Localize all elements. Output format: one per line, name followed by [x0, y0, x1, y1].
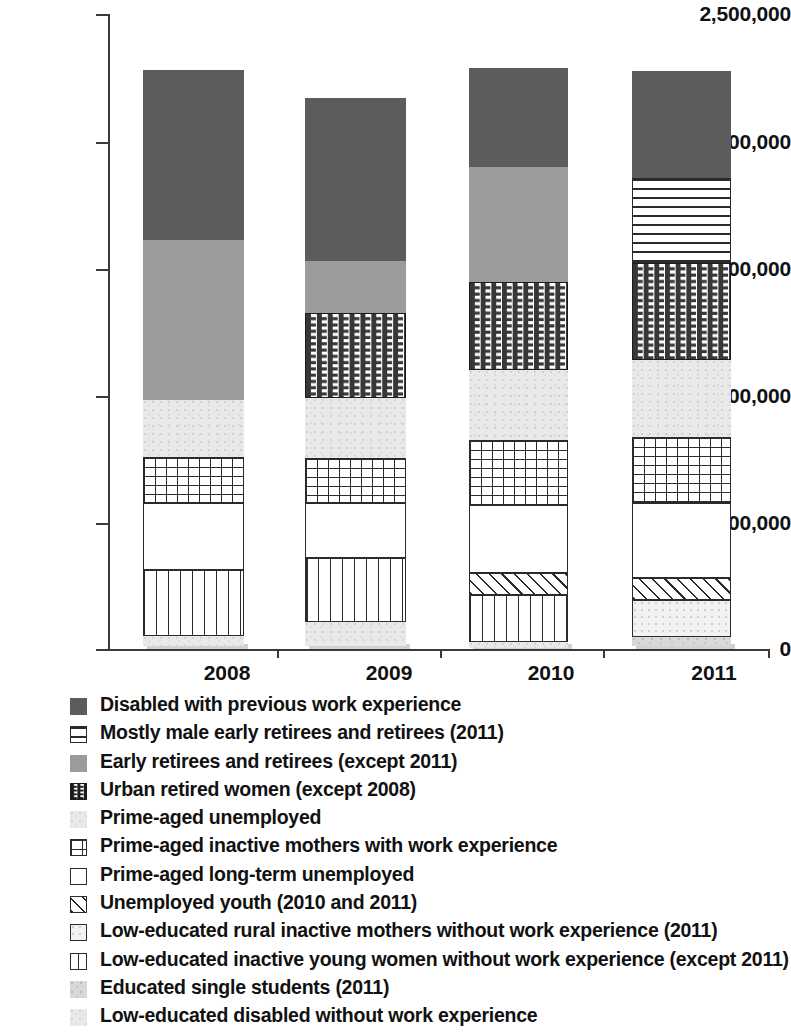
- plot-area: 2,500,000 2,000,000 1,500,000 1,000,000 …: [0, 0, 791, 690]
- legend-label-6: Prime-aged long-term unemployed: [100, 864, 414, 885]
- legend-label-5: Prime-aged inactive mothers with work ex…: [100, 835, 557, 856]
- segment-2009-low-edu-inactive-young-women: [305, 558, 406, 622]
- segment-2010-low-edu-disabled: [469, 642, 568, 648]
- legend-item-prime-aged-long-term-unemployed[interactable]: Prime-aged long-term unemployed: [70, 864, 791, 892]
- legend-label-9: Low-educated inactive young women withou…: [100, 949, 789, 970]
- segment-2009-prime-aged-inactive-mothers: [305, 458, 406, 503]
- segment-2009-prime-aged-unemployed: [305, 398, 406, 458]
- legend-swatch-light-speckle-icon: [70, 811, 87, 828]
- segment-2008-prime-aged-unemployed: [143, 400, 244, 457]
- segment-2009-prime-aged-long-term-unemployed: [305, 503, 406, 558]
- segment-2010-early-retirees: [469, 167, 568, 282]
- segment-2009-disabled-prev-work: [305, 98, 406, 261]
- legend-label-1: Mostly male early retirees and retirees …: [100, 722, 504, 743]
- legend-swatch-medium-speckle-icon: [70, 981, 87, 998]
- xtick-mark-1: [440, 650, 442, 658]
- legend-label-2: Early retirees and retirees (except 2011…: [100, 751, 457, 772]
- legend-item-low-edu-inactive-young-women[interactable]: Low-educated inactive young women withou…: [70, 949, 791, 977]
- segment-2011-prime-aged-inactive-mothers: [632, 437, 731, 503]
- segment-2010-prime-aged-inactive-mothers: [469, 440, 568, 505]
- legend-item-prime-aged-inactive-mothers[interactable]: Prime-aged inactive mothers with work ex…: [70, 835, 791, 863]
- legend-swatch-solid-mid-gray-icon: [70, 755, 87, 772]
- stacked-bar-chart: 2,500,000 2,000,000 1,500,000 1,000,000 …: [0, 0, 791, 1032]
- segment-2010-prime-aged-unemployed: [469, 370, 568, 440]
- legend-swatch-horizontal-lines-icon: [70, 726, 87, 743]
- segment-2009-urban-retired-women: [305, 313, 406, 398]
- legend: Disabled with previous work experience M…: [70, 694, 791, 1032]
- legend-item-low-edu-rural-inactive-mothers[interactable]: Low-educated rural inactive mothers with…: [70, 920, 791, 948]
- bar-2008[interactable]: [143, 70, 244, 646]
- xtick-mark-3: [768, 650, 770, 658]
- legend-label-3: Urban retired women (except 2008): [100, 779, 416, 800]
- segment-2008-early-retirees: [143, 240, 244, 400]
- x-axis-line: [108, 649, 770, 651]
- legend-label-10: Educated single students (2011): [100, 977, 389, 998]
- segment-2008-low-edu-inactive-young-women: [143, 570, 244, 636]
- bar-2011[interactable]: [632, 71, 731, 646]
- legend-item-low-edu-disabled[interactable]: Low-educated disabled without work exper…: [70, 1005, 791, 1032]
- segment-2008-low-edu-disabled: [143, 636, 244, 646]
- y-axis-line: [108, 14, 110, 651]
- segment-2011-educated-single-students: [632, 600, 731, 637]
- legend-swatch-grid-icon: [70, 839, 87, 856]
- segment-2010-urban-retired-women: [469, 282, 568, 370]
- segment-2011-mostly-male-early-retirees: [632, 178, 731, 263]
- legend-swatch-two-column-box-icon: [70, 953, 87, 970]
- bar-2010[interactable]: [469, 68, 568, 648]
- xtick-label-2010: 2010: [481, 662, 621, 683]
- legend-item-mostly-male-early-retirees[interactable]: Mostly male early retirees and retirees …: [70, 722, 791, 750]
- segment-2011-disabled-prev-work: [632, 71, 731, 178]
- legend-label-0: Disabled with previous work experience: [100, 694, 461, 715]
- legend-item-early-retirees[interactable]: Early retirees and retirees (except 2011…: [70, 751, 791, 779]
- xtick-label-2011: 2011: [644, 662, 784, 683]
- segment-2010-low-edu-inactive-young-women: [469, 595, 568, 642]
- segment-2011-prime-aged-long-term-unemployed: [632, 503, 731, 578]
- segment-2008-disabled-prev-work: [143, 70, 244, 240]
- legend-item-educated-single-students[interactable]: Educated single students (2011): [70, 977, 791, 1005]
- legend-item-unemployed-youth[interactable]: Unemployed youth (2010 and 2011): [70, 892, 791, 920]
- legend-swatch-zigzag-icon: [70, 783, 87, 800]
- legend-swatch-empty-box-icon: [70, 868, 87, 885]
- legend-label-7: Unemployed youth (2010 and 2011): [100, 892, 417, 913]
- legend-item-prime-aged-unemployed[interactable]: Prime-aged unemployed: [70, 807, 791, 835]
- segment-2011-low-edu-disabled: [632, 637, 731, 646]
- legend-item-disabled-prev-work[interactable]: Disabled with previous work experience: [70, 694, 791, 722]
- segment-2009-low-edu-disabled: [305, 622, 406, 646]
- ytick-label-0: 2,500,000: [695, 3, 791, 24]
- segment-2011-unemployed-youth: [632, 578, 731, 600]
- segment-2008-prime-aged-inactive-mothers: [143, 457, 244, 503]
- segment-2010-prime-aged-long-term-unemployed: [469, 505, 568, 573]
- segment-2010-disabled-prev-work: [469, 68, 568, 167]
- segment-2009-early-retirees: [305, 261, 406, 313]
- legend-label-4: Prime-aged unemployed: [100, 807, 321, 828]
- legend-item-urban-retired-women[interactable]: Urban retired women (except 2008): [70, 779, 791, 807]
- legend-label-8: Low-educated rural inactive mothers with…: [100, 920, 717, 941]
- segment-2011-prime-aged-unemployed: [632, 360, 731, 437]
- xtick-mark-0: [277, 650, 279, 658]
- legend-swatch-diagonal-hatch-icon: [70, 896, 87, 913]
- segment-2010-unemployed-youth: [469, 573, 568, 595]
- xtick-label-2008: 2008: [157, 662, 297, 683]
- xtick-label-2009: 2009: [319, 662, 459, 683]
- legend-swatch-dotted-box-icon: [70, 924, 87, 941]
- legend-label-11: Low-educated disabled without work exper…: [100, 1005, 537, 1026]
- xtick-mark-2: [603, 650, 605, 658]
- legend-swatch-pale-speckle-icon: [70, 1009, 87, 1026]
- segment-2011-urban-retired-women: [632, 263, 731, 360]
- segment-2008-prime-aged-long-term-unemployed: [143, 503, 244, 570]
- bar-2009[interactable]: [305, 98, 406, 646]
- legend-swatch-solid-dark-icon: [70, 698, 87, 715]
